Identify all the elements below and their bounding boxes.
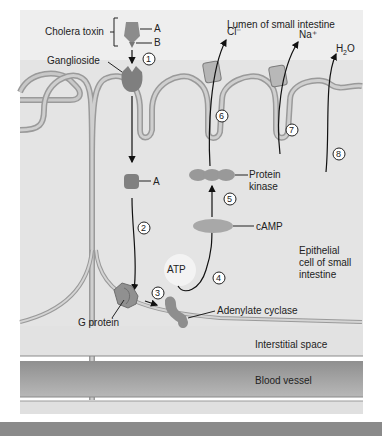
diagram-stage: Cholera toxin A B Ganglioside 1 A 2 G pr… <box>0 0 382 436</box>
protein-kinase-icon <box>189 169 235 181</box>
cholera-diagram: Cholera toxin A B Ganglioside 1 A 2 G pr… <box>0 0 382 436</box>
step-1: 1 <box>143 53 155 65</box>
cl-channel-icon <box>202 61 221 83</box>
atp-label: ATP <box>167 264 186 275</box>
svg-text:5: 5 <box>227 194 232 204</box>
g-protein-label: G protein <box>78 317 119 328</box>
step-4: 4 <box>213 272 225 284</box>
svg-text:6: 6 <box>219 111 224 121</box>
protein-kinase-label-2: kinase <box>249 181 278 192</box>
camp-label: cAMP <box>256 221 283 232</box>
svg-text:2: 2 <box>141 223 146 233</box>
svg-text:3: 3 <box>155 288 160 298</box>
svg-text:1: 1 <box>146 54 151 64</box>
subunit-b-label: B <box>154 37 161 48</box>
cholera-toxin-label: Cholera toxin <box>45 26 104 37</box>
cell-label-2: cell of small <box>299 257 351 268</box>
cell-label-1: Epithelial <box>299 245 340 256</box>
step-3: 3 <box>152 287 164 299</box>
svg-text:O: O <box>347 43 355 54</box>
blood-vessel-label: Blood vessel <box>255 375 312 386</box>
step-8: 8 <box>333 148 345 160</box>
a-fragment-icon <box>124 174 139 189</box>
step-5: 5 <box>224 193 236 205</box>
camp-icon <box>193 219 233 233</box>
svg-text:4: 4 <box>216 273 221 283</box>
adenylate-cyclase-label: Adenylate cyclase <box>217 305 298 316</box>
step-6: 6 <box>216 110 228 122</box>
bottom-bar <box>0 422 382 436</box>
ganglioside-label: Ganglioside <box>47 55 100 66</box>
a-fragment-label: A <box>153 176 160 187</box>
svg-text:8: 8 <box>336 149 341 159</box>
step-2: 2 <box>138 222 150 234</box>
subunit-a-label: A <box>154 23 161 34</box>
svg-text:7: 7 <box>289 125 294 135</box>
step-7: 7 <box>286 124 298 136</box>
protein-kinase-label-1: Protein <box>249 169 281 180</box>
interstitial-label: Interstitial space <box>255 339 328 350</box>
cell-region <box>20 60 363 355</box>
cell-label-3: intestine <box>299 269 337 280</box>
lumen-label: Lumen of small intestine <box>227 19 335 30</box>
sodium-label: Na⁺ <box>299 29 317 40</box>
